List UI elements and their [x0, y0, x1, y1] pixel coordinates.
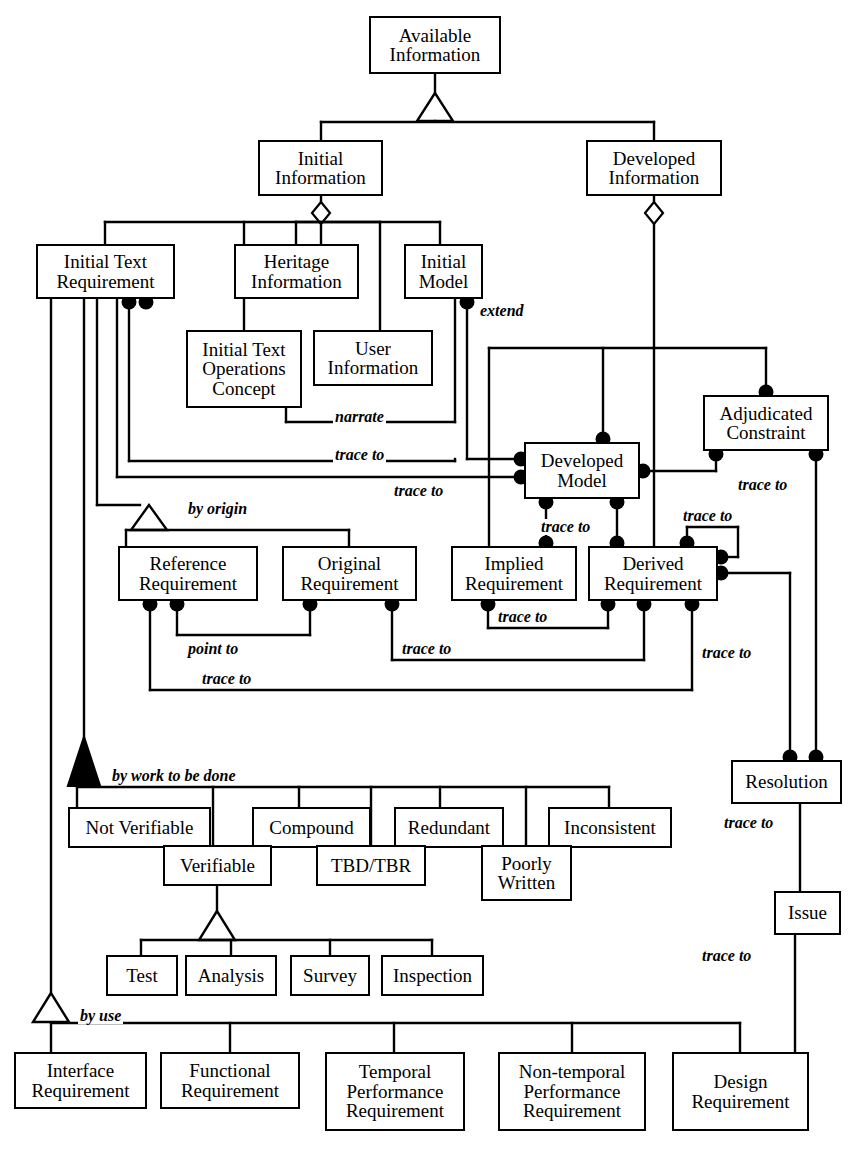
node-derived-requirement[interactable]: Derived Requirement — [588, 546, 718, 601]
edge-label-by-work-to-be-done: by work to be done — [110, 768, 238, 784]
node-inconsistent[interactable]: Inconsistent — [548, 807, 672, 848]
node-test[interactable]: Test — [106, 955, 178, 996]
node-non-temporal-performance-requirement[interactable]: Non-temporal Performance Requirement — [498, 1052, 646, 1131]
edge-label-point-to: point to — [186, 641, 240, 657]
node-label: Adjudicated Constraint — [720, 404, 813, 443]
edge-label-trace-to-design: trace to — [700, 948, 753, 964]
node-label: Heritage Information — [251, 252, 342, 291]
node-reference-requirement[interactable]: Reference Requirement — [118, 546, 258, 601]
node-temporal-performance-requirement[interactable]: Temporal Performance Requirement — [325, 1052, 465, 1131]
node-label: Inspection — [393, 966, 472, 985]
node-label: Developed Information — [609, 149, 700, 188]
node-poorly-written[interactable]: Poorly Written — [481, 845, 572, 901]
node-label: Initial Text Operations Concept — [202, 340, 285, 398]
node-label: Interface Requirement — [31, 1061, 129, 1100]
node-initial-text-requirement[interactable]: Initial Text Requirement — [36, 244, 175, 299]
edge-label-trace-to-developed-implied: trace to — [539, 519, 592, 535]
node-original-requirement[interactable]: Original Requirement — [282, 546, 417, 601]
node-label: Issue — [788, 903, 827, 922]
node-inspection[interactable]: Inspection — [381, 955, 484, 996]
node-label: TBD/TBR — [331, 856, 411, 875]
node-label: Poorly Written — [498, 854, 555, 893]
edge-label-extend: extend — [478, 303, 526, 319]
edge-label-trace-to-resolution: trace to — [700, 645, 753, 661]
node-label: Derived Requirement — [604, 554, 702, 593]
node-label: Initial Model — [419, 252, 469, 291]
node-resolution[interactable]: Resolution — [731, 760, 842, 804]
node-initial-information[interactable]: Initial Information — [258, 140, 383, 196]
node-issue[interactable]: Issue — [774, 891, 841, 935]
node-verifiable[interactable]: Verifiable — [163, 845, 272, 886]
edge-label-trace-to-issue: trace to — [722, 815, 775, 831]
node-functional-requirement[interactable]: Functional Requirement — [160, 1052, 300, 1109]
node-label: Redundant — [408, 818, 490, 837]
node-initial-model[interactable]: Initial Model — [404, 244, 483, 299]
node-label: Implied Requirement — [465, 554, 563, 593]
node-compound[interactable]: Compound — [252, 807, 371, 848]
node-label: Design Requirement — [691, 1072, 789, 1111]
node-label: Analysis — [198, 966, 265, 985]
node-implied-requirement[interactable]: Implied Requirement — [451, 546, 577, 601]
node-survey[interactable]: Survey — [290, 955, 370, 996]
edge-label-trace-to-implied-derived: trace to — [496, 609, 549, 625]
edge-label-trace-to-derived-top: trace to — [681, 508, 734, 524]
node-label: Non-temporal Performance Requirement — [519, 1062, 626, 1120]
node-label: Developed Model — [541, 451, 623, 490]
node-tbd-tbr[interactable]: TBD/TBR — [316, 845, 426, 886]
node-redundant[interactable]: Redundant — [394, 807, 504, 848]
node-initial-text-operations-concept[interactable]: Initial Text Operations Concept — [186, 330, 302, 408]
node-label: Compound — [269, 818, 353, 837]
uml-class-diagram: Available Information Initial Informatio… — [0, 0, 867, 1175]
node-label: Survey — [303, 966, 357, 985]
node-analysis[interactable]: Analysis — [185, 955, 277, 996]
node-label: Not Verifiable — [86, 818, 194, 837]
node-not-verifiable[interactable]: Not Verifiable — [68, 807, 211, 848]
node-label: User Information — [328, 339, 419, 378]
node-developed-model[interactable]: Developed Model — [524, 442, 640, 499]
edge-label-trace-to-initial-text-op: trace to — [333, 447, 386, 463]
edge-label-trace-to-original: trace to — [400, 641, 453, 657]
node-heritage-information[interactable]: Heritage Information — [234, 244, 359, 299]
node-label: Test — [126, 966, 157, 985]
node-label: Resolution — [745, 772, 827, 791]
edge-label-by-use: by use — [78, 1008, 123, 1024]
node-label: Available Information — [390, 26, 481, 65]
edge-label-trace-to-adjudicated: trace to — [736, 477, 789, 493]
node-interface-requirement[interactable]: Interface Requirement — [14, 1052, 147, 1109]
edge-label-trace-to-reference: trace to — [200, 671, 253, 687]
node-design-requirement[interactable]: Design Requirement — [672, 1052, 809, 1131]
node-label: Functional Requirement — [181, 1061, 279, 1100]
node-label: Initial Information — [275, 149, 366, 188]
node-label: Reference Requirement — [139, 554, 237, 593]
node-user-information[interactable]: User Information — [313, 330, 433, 386]
edge-label-narrate: narrate — [333, 409, 386, 425]
node-label: Verifiable — [180, 856, 255, 875]
node-available-information[interactable]: Available Information — [369, 16, 501, 74]
node-developed-information[interactable]: Developed Information — [586, 140, 722, 196]
node-adjudicated-constraint[interactable]: Adjudicated Constraint — [703, 395, 829, 451]
node-label: Temporal Performance Requirement — [346, 1062, 444, 1120]
edge-label-by-origin: by origin — [186, 501, 249, 517]
node-label: Inconsistent — [564, 818, 656, 837]
node-label: Initial Text Requirement — [56, 252, 154, 291]
edge-label-trace-to-initial-text-req: trace to — [392, 483, 445, 499]
node-label: Original Requirement — [300, 554, 398, 593]
